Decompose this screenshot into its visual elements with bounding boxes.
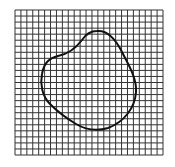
grid-diagram xyxy=(0,0,175,167)
grid-lines xyxy=(15,10,163,155)
